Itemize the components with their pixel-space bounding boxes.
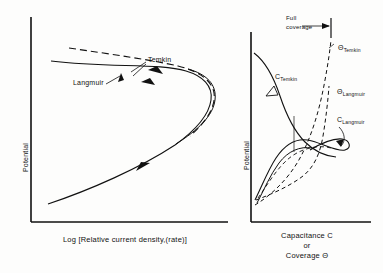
theta-temkin-subscript: Temkin [344,47,361,53]
left-x-axis-label: Log [Relative current density,(rate)] [63,235,187,244]
langmuir-label: Langmuir [73,79,104,86]
right-x-axis-label-line3: Coverage Θ [264,251,350,260]
temkin-leader [131,62,146,76]
c-temkin-subscript: Temkin [280,76,297,82]
arrow-langmuir-return [141,78,155,85]
langmuir-leader [106,76,120,84]
full-coverage-arrowhead [322,23,330,29]
theta-temkin-label: ΘTemkin [338,44,361,53]
full-coverage-label-line1: Full [286,15,296,21]
temkin-curve [69,48,214,136]
right-x-axis-label-line2: or [264,241,350,250]
left-panel-curves [48,48,215,204]
c-langmuir-label: CLangmuir [337,116,365,125]
c-temkin-leader-arrow [266,86,278,96]
temkin-label: Temkin [148,56,171,63]
theta-langmuir-label: ΘLangmuir [337,88,365,97]
right-panel-curves [254,40,349,205]
theta-langmuir-subscript: Langmuir [343,91,365,97]
theta-temkin-curve [255,40,331,205]
theta-temkin-leader [329,44,334,48]
left-y-axis-label: Potential [22,143,29,172]
c-langmuir-tail [257,148,312,203]
right-y-axis-label: Potential [243,141,250,170]
c-temkin-label: CTemkin [275,73,297,82]
c-langmuir-subscript: Langmuir [342,119,364,125]
full-coverage-label-line2: coverage [286,24,312,30]
coverage-lower-dashed-tail [258,147,331,198]
right-x-axis-label-line1: Capacitance C [264,231,350,240]
langmuir-leader-arrow [118,73,124,82]
left-panel-axes [31,17,228,222]
